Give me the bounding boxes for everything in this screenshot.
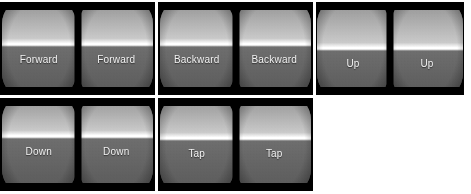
lens-view-left: Backward <box>158 2 236 95</box>
lens-view-left: Up <box>316 2 390 95</box>
lens-barrel: Backward <box>237 2 311 95</box>
stereo-view: TapTap <box>158 98 313 191</box>
lens-barrel: Tap <box>160 98 234 191</box>
lens-view-left: Forward <box>0 2 78 95</box>
lens-barrel: Down <box>79 98 153 191</box>
horizon-scene <box>79 2 153 95</box>
panel-grid: ForwardForwardBackwardBackwardUpUpDownDo… <box>0 0 471 194</box>
lens-view-left: Tap <box>158 98 236 191</box>
lens-barrel: Backward <box>160 2 234 95</box>
lens-barrel: Forward <box>79 2 153 95</box>
lens-view-right: Tap <box>236 98 314 191</box>
horizon-scene <box>160 98 234 191</box>
horizon-scene <box>237 2 311 95</box>
panel-tap[interactable]: TapTap <box>158 98 313 191</box>
lens-barrel: Up <box>317 2 388 95</box>
horizon-scene <box>391 2 462 95</box>
lens-view-right: Down <box>78 98 156 191</box>
lens-barrel: Up <box>391 2 462 95</box>
panel-down[interactable]: DownDown <box>0 98 155 191</box>
horizon-scene <box>2 2 76 95</box>
horizon-scene <box>317 2 388 95</box>
lens-view-left: Down <box>0 98 78 191</box>
stereo-view: BackwardBackward <box>158 2 313 95</box>
lens-view-right: Up <box>390 2 464 95</box>
lens-view-right: Backward <box>236 2 314 95</box>
horizon-scene <box>79 98 153 191</box>
panel-backward[interactable]: BackwardBackward <box>158 2 313 95</box>
lens-barrel: Tap <box>237 98 311 191</box>
stereo-view: DownDown <box>0 98 155 191</box>
lens-barrel: Down <box>2 98 76 191</box>
horizon-scene <box>2 98 76 191</box>
lens-barrel: Forward <box>2 2 76 95</box>
lens-view-right: Forward <box>78 2 156 95</box>
panel-up[interactable]: UpUp <box>316 2 464 95</box>
horizon-scene <box>237 98 311 191</box>
horizon-scene <box>160 2 234 95</box>
stereo-view: ForwardForward <box>0 2 155 95</box>
panel-forward[interactable]: ForwardForward <box>0 2 155 95</box>
stereo-view: UpUp <box>316 2 464 95</box>
